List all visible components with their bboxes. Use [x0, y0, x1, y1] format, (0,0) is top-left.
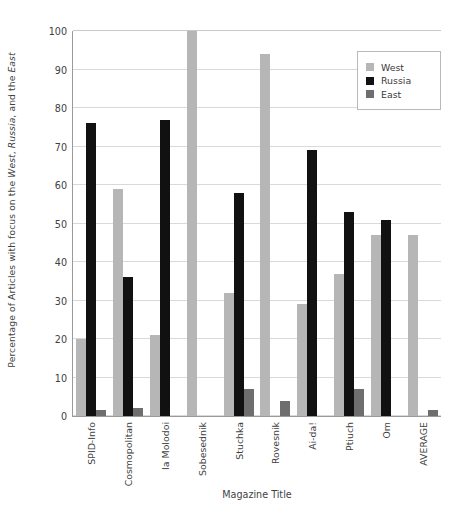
bar-russia [344, 212, 354, 416]
chart-figure: Percentage of Articles with focus on the… [0, 0, 453, 525]
bar-west [408, 235, 418, 416]
bar-group [294, 31, 331, 416]
bar-group [73, 31, 110, 416]
bar-east [96, 410, 106, 416]
y-tick-label: 80 [27, 103, 67, 114]
x-tick-cell: Cosmopolitan [110, 420, 147, 482]
bar-group [147, 31, 184, 416]
y-axis-title: Percentage of Articles with focus on the… [0, 0, 22, 420]
x-axis-ticks: SPID-InfoCosmopolitanIa MolodoiSobesedni… [73, 420, 441, 482]
x-tick-cell: Ia Molodoi [147, 420, 184, 482]
x-axis-title: Magazine Title [73, 489, 441, 500]
x-tick-cell: Ptiuch [331, 420, 368, 482]
x-axis-line [72, 416, 441, 417]
y-axis-title-text: Percentage of Articles with focus on the… [6, 52, 17, 367]
y-tick-label: 10 [27, 372, 67, 383]
bar-west [260, 54, 270, 416]
bar-russia [123, 277, 133, 416]
bar-east [354, 389, 364, 416]
x-tick-label: SPID-Info [86, 422, 97, 465]
legend-swatch-west [366, 63, 374, 71]
legend-label-west: West [381, 62, 404, 73]
y-tick-label: 100 [27, 26, 67, 37]
bar-west [224, 293, 234, 416]
y-tick-label: 30 [27, 295, 67, 306]
y-axis-ticks: 0102030405060708090100 [23, 31, 67, 416]
legend-label-russia: Russia [381, 75, 411, 86]
legend-item-east: East [366, 89, 434, 100]
legend-item-russia: Russia [366, 75, 434, 86]
y-tick-label: 20 [27, 334, 67, 345]
x-tick-cell: AVERAGE [404, 420, 441, 482]
bar-russia [381, 220, 391, 416]
y-tick-label: 60 [27, 180, 67, 191]
x-tick-label: AVERAGE [417, 422, 428, 466]
x-tick-label: Ia Molodoi [159, 422, 170, 470]
bar-west [113, 189, 123, 416]
x-tick-cell: Rovesnik [257, 420, 294, 482]
x-tick-cell: Stuchka [220, 420, 257, 482]
legend-label-east: East [381, 89, 401, 100]
x-tick-label: Ai-da! [307, 422, 318, 450]
bar-east [244, 389, 254, 416]
bar-west [371, 235, 381, 416]
chart-legend: West Russia East [357, 51, 441, 110]
x-tick-cell: Ai-da! [294, 420, 331, 482]
bar-west [297, 304, 307, 416]
x-tick-cell: Om [367, 420, 404, 482]
bar-west [150, 335, 160, 416]
legend-swatch-east [366, 90, 374, 98]
x-tick-label: Rovesnik [270, 422, 281, 464]
y-tick-label: 70 [27, 141, 67, 152]
bar-west [187, 31, 197, 416]
y-tick-label: 0 [27, 411, 67, 422]
bar-russia [307, 150, 317, 416]
x-tick-label: Cosmopolitan [123, 422, 134, 486]
bar-group [220, 31, 257, 416]
bar-group [183, 31, 220, 416]
bar-russia [86, 123, 96, 416]
legend-swatch-russia [366, 77, 374, 85]
bar-east [133, 408, 143, 416]
bar-west [334, 274, 344, 416]
x-tick-cell: Sobesednik [183, 420, 220, 482]
y-tick-label: 50 [27, 218, 67, 229]
bar-east [280, 401, 290, 416]
bar-east [428, 410, 438, 416]
x-tick-label: Stuchka [233, 422, 244, 460]
y-tick-label: 40 [27, 257, 67, 268]
x-tick-cell: SPID-Info [73, 420, 110, 482]
bar-west [76, 339, 86, 416]
legend-item-west: West [366, 62, 434, 73]
bar-russia [234, 193, 244, 416]
bar-group [257, 31, 294, 416]
y-tick-label: 90 [27, 64, 67, 75]
x-tick-label: Ptiuch [343, 422, 354, 451]
x-tick-label: Sobesednik [196, 422, 207, 476]
bar-group [110, 31, 147, 416]
x-tick-label: Om [380, 422, 391, 439]
bar-russia [160, 120, 170, 416]
